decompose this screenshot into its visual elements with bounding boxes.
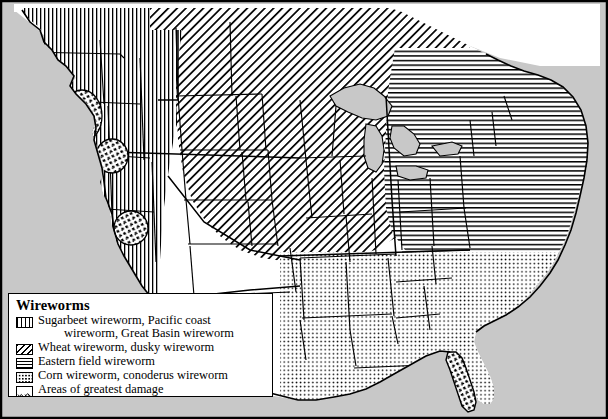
legend-entry-sugarbeet: Sugarbeet wireworm, Pacific coastwirewor… [16, 314, 268, 341]
crosshatch-glyph [17, 392, 32, 397]
legend-label-eastern-field: Eastern field wireworm [38, 355, 155, 368]
southwest-damage-oval [114, 211, 148, 245]
legend-label-corn: Corn wireworm, conoderus wireworm [38, 369, 228, 382]
map-figure: Wireworms Sugarbeet wireworm, Pacific co… [0, 0, 608, 419]
legend-swatch-crosshatch [16, 386, 33, 397]
legend-swatch-horizontal-lines [16, 358, 33, 369]
legend-entry-greatest-damage: Areas of greatest damage [16, 383, 268, 397]
legend: Wireworms Sugarbeet wireworm, Pacific co… [8, 293, 273, 397]
legend-label-sugarbeet: Sugarbeet wireworm, Pacific coastwirewor… [38, 314, 234, 341]
legend-label-wheat: Wheat wireworm, dusky wireworm [38, 341, 214, 354]
legend-label-greatest-damage: Areas of greatest damage [38, 383, 164, 396]
legend-swatch-dots [16, 372, 33, 383]
legend-title: Wireworms [16, 297, 268, 313]
legend-entry-wheat: Wheat wireworm, dusky wireworm [16, 341, 268, 355]
legend-swatch-vertical-lines [16, 317, 33, 328]
legend-label-sugarbeet-cont: wireworm, Great Basin wireworm [38, 327, 234, 340]
legend-entry-corn: Corn wireworm, conoderus wireworm [16, 369, 268, 383]
legend-swatch-diagonal-hatch [16, 344, 33, 355]
legend-entry-eastern-field: Eastern field wireworm [16, 355, 268, 369]
